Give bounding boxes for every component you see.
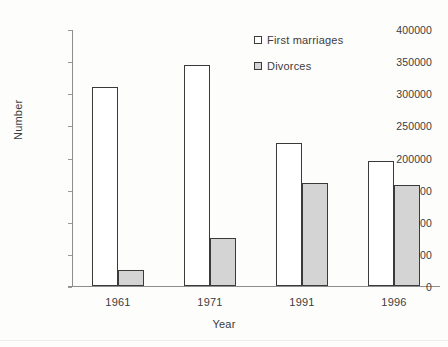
chart-page: 0500001000001500002000002500003000003500…	[0, 0, 448, 347]
y-tick-mark	[68, 191, 72, 192]
x-tick-label: 1961	[105, 296, 130, 308]
bar-1996-divorces	[394, 185, 420, 287]
y-tick-mark	[68, 62, 72, 63]
y-tick-label: 250000	[374, 120, 432, 132]
y-tick-label: 400000	[374, 24, 432, 36]
bar-1971-divorces	[210, 238, 236, 286]
y-tick-mark	[68, 94, 72, 95]
y-tick-mark	[68, 159, 72, 160]
legend-label: First marriages	[267, 34, 343, 46]
x-tick-label: 1991	[289, 296, 314, 308]
legend-item-first-marriages: First marriages	[254, 34, 343, 46]
bar-1961-divorces	[118, 270, 144, 286]
bar-1971-first-marriages	[184, 65, 210, 286]
legend-swatch-icon	[254, 62, 262, 70]
chart-legend: First marriagesDivorces	[254, 34, 343, 86]
y-tick-label: 300000	[374, 88, 432, 100]
y-tick-mark	[68, 223, 72, 224]
legend-swatch-icon	[254, 36, 262, 44]
legend-item-divorces: Divorces	[254, 60, 343, 72]
x-tick-label: 1971	[197, 296, 222, 308]
y-tick-label: 350000	[374, 56, 432, 68]
y-axis-line	[72, 30, 73, 287]
x-axis-title: Year	[0, 318, 448, 330]
y-axis-title: Number	[12, 100, 24, 140]
bar-1996-first-marriages	[368, 161, 394, 286]
y-tick-mark	[68, 287, 72, 288]
bar-1961-first-marriages	[92, 87, 118, 286]
bar-1991-divorces	[302, 183, 328, 286]
legend-label: Divorces	[267, 60, 311, 72]
y-tick-mark	[68, 30, 72, 31]
bar-1991-first-marriages	[276, 143, 302, 286]
scan-artifact-line	[0, 340, 448, 341]
x-tick-label: 1996	[381, 296, 406, 308]
y-tick-mark	[68, 126, 72, 127]
y-tick-mark	[68, 255, 72, 256]
